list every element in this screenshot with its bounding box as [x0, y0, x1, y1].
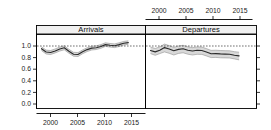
chart-svg: 2000 2005 2010 2015 1.0 0.8 0.6 0.4 0.2 …: [0, 0, 271, 130]
y-axis-tick-label-1.0: 1.0: [22, 42, 32, 49]
chart-figure: 2000 2005 2010 2015 1.0 0.8 0.6 0.4 0.2 …: [0, 0, 271, 130]
y-axis-right: [257, 34, 261, 109]
y-axis-tick-label-0.2: 0.2: [22, 89, 32, 96]
top-axis-tick-label-2015: 2015: [232, 7, 247, 14]
bottom-axis-tick-label-2000: 2000: [43, 119, 58, 126]
bottom-axis-tick-label-2005: 2005: [70, 119, 85, 126]
y-axis-tick-label-0.0: 0.0: [22, 100, 32, 107]
y-axis-tick-label-0.4: 0.4: [22, 77, 32, 84]
panel-departures: Departures: [146, 25, 257, 108]
panel-arrivals: Arrivals: [37, 25, 146, 108]
top-axis-tick-label-2010: 2010: [205, 7, 220, 14]
y-axis-tick-label-0.6: 0.6: [22, 65, 32, 72]
bottom-axis-tick-label-2015: 2015: [124, 119, 139, 126]
panel-background-arrivals: [37, 35, 145, 109]
strip-label-departures: Departures: [182, 25, 220, 34]
top-axis: 2000 2005 2010 2015: [146, 7, 253, 20]
top-axis-tick-label-2005: 2005: [178, 7, 193, 14]
y-axis: 1.0 0.8 0.6 0.4 0.2 0.0: [22, 34, 37, 109]
bottom-axis-tick-label-2010: 2010: [97, 119, 112, 126]
strip-label-arrivals: Arrivals: [78, 25, 104, 34]
y-axis-tick-label-0.8: 0.8: [22, 54, 32, 61]
top-axis-tick-label-2000: 2000: [151, 7, 166, 14]
bottom-axis: 2000 2005 2010 2015: [37, 114, 146, 127]
